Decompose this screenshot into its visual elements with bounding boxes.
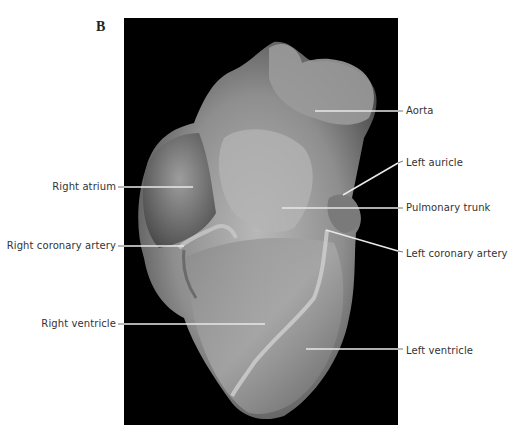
figure-panel-letter: B (96, 19, 105, 35)
label-left-ventricle: Left ventricle (406, 345, 473, 357)
label-aorta: Aorta (406, 105, 433, 117)
label-left-coronary-artery: Left coronary artery (406, 248, 508, 260)
label-left-auricle: Left auricle (406, 157, 463, 169)
label-right-atrium: Right atrium (52, 181, 116, 193)
heart-illustration (124, 18, 398, 425)
label-right-ventricle: Right ventricle (41, 318, 116, 330)
label-pulmonary-trunk: Pulmonary trunk (406, 202, 491, 214)
heart-photograph (124, 18, 398, 425)
label-right-coronary-artery: Right coronary artery (7, 240, 116, 252)
